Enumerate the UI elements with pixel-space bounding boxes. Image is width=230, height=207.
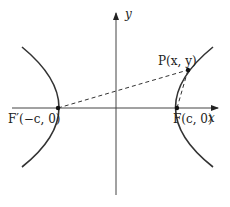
y-axis-label: y [124,7,132,21]
point-fprime-label: F′(−c, 0) [8,112,60,126]
point-p [186,68,190,72]
hyperbola-diagram: y x P(x, y) F(c, 0) F′(−c, 0) [0,0,230,207]
segment-fprime-p [58,70,188,108]
point-fprime [56,106,60,110]
point-f-label: F(c, 0) [173,112,213,126]
left-branch [22,47,59,167]
point-f [175,106,179,110]
point-p-label: P(x, y) [158,54,197,68]
